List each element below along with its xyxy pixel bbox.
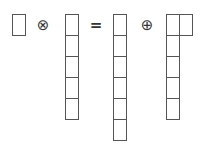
tensor-product-symbol: ⊗ <box>36 18 50 33</box>
tableau-cell <box>179 14 193 36</box>
tableau-cell <box>166 14 180 36</box>
tableau-cell <box>113 98 127 120</box>
tableau-cell <box>113 119 127 141</box>
tableau-cell <box>65 56 79 78</box>
tableau-cell <box>166 56 180 78</box>
tableau-cell <box>113 56 127 78</box>
tableau-cell <box>166 77 180 99</box>
equals-symbol: = <box>89 18 103 33</box>
direct-sum-symbol: ⊕ <box>140 18 154 33</box>
tableau-cell <box>65 14 79 36</box>
tableau-cell <box>65 98 79 120</box>
tableau-cell <box>166 98 180 120</box>
tableau-cell <box>113 77 127 99</box>
tableau-cell <box>12 14 26 36</box>
tableau-cell <box>113 35 127 57</box>
tableau-cell <box>65 77 79 99</box>
tableau-cell <box>113 14 127 36</box>
tableau-cell <box>65 35 79 57</box>
tableau-cell <box>166 35 180 57</box>
